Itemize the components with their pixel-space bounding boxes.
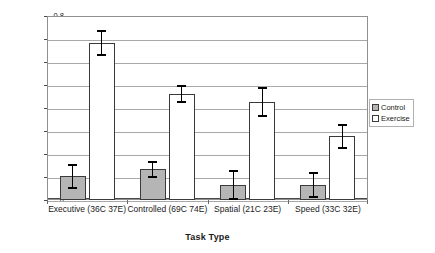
error-bar-cap-lower bbox=[68, 187, 77, 189]
error-bar-stem bbox=[101, 31, 102, 55]
error-bar-cap-upper bbox=[97, 30, 106, 32]
error-bar-cap-upper bbox=[148, 161, 157, 163]
legend-swatch-exercise-icon bbox=[372, 115, 379, 122]
error-bar-stem bbox=[72, 165, 73, 188]
error-bar-cap-upper bbox=[68, 164, 77, 166]
error-bar-cap-lower bbox=[148, 176, 157, 178]
error-bar-stem bbox=[342, 125, 343, 148]
x-axis-title: Task Type bbox=[47, 232, 368, 242]
error-bar-cap-upper bbox=[338, 124, 347, 126]
legend-swatch-control-icon bbox=[372, 104, 379, 111]
error-bar-cap-upper bbox=[309, 172, 318, 174]
error-bar-cap-upper bbox=[229, 170, 238, 172]
bar-chart: Effect size (g) 0.80.70.60.50.40.30.20.1… bbox=[0, 0, 435, 253]
bars-layer bbox=[47, 16, 368, 200]
error-bar-stem bbox=[181, 86, 182, 102]
error-bar-stem bbox=[262, 88, 263, 117]
error-bar-cap-lower bbox=[258, 115, 267, 117]
legend-label-exercise: Exercise bbox=[381, 114, 410, 123]
x-axis-tick-labels: Executive (36C 37E)Controlled (69C 74E)S… bbox=[47, 204, 368, 234]
error-bar-stem bbox=[152, 162, 153, 178]
error-bar-cap-lower bbox=[177, 101, 186, 103]
x-axis-tick-label: Spatial (21C 23E) bbox=[208, 204, 288, 215]
chart-legend: Control Exercise bbox=[369, 99, 414, 127]
bar-exercise bbox=[169, 94, 195, 200]
error-bar-cap-lower bbox=[229, 198, 238, 200]
legend-label-control: Control bbox=[381, 103, 405, 112]
error-bar-cap-lower bbox=[338, 147, 347, 149]
error-bar-stem bbox=[313, 173, 314, 197]
error-bar-cap-lower bbox=[309, 196, 318, 198]
error-bar-cap-upper bbox=[177, 85, 186, 87]
bar-exercise bbox=[89, 43, 115, 200]
legend-item-exercise[interactable]: Exercise bbox=[372, 113, 410, 124]
legend-item-control[interactable]: Control bbox=[372, 102, 410, 113]
error-bar-cap-lower bbox=[97, 54, 106, 56]
x-axis-tick-label: Speed (33C 32E) bbox=[288, 204, 368, 215]
x-axis-tick-label: Executive (36C 37E) bbox=[47, 204, 127, 215]
error-bar-cap-upper bbox=[258, 87, 267, 89]
error-bar-stem bbox=[233, 171, 234, 200]
x-axis-tick-label: Controlled (69C 74E) bbox=[127, 204, 207, 215]
